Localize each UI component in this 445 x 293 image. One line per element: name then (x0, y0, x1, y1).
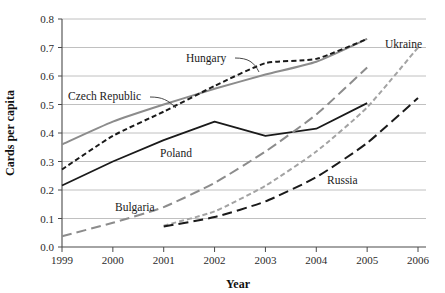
x-tick-label-2005: 2005 (356, 254, 379, 266)
y-tick-label-0.8: 0.8 (40, 13, 54, 25)
line-chart: 0.00.10.20.30.40.50.60.70.8 199920002001… (0, 0, 445, 293)
y-tick-label-0.5: 0.5 (40, 99, 54, 111)
x-tick-label-2003: 2003 (254, 254, 277, 266)
series-line-ukraine (164, 48, 418, 226)
series-line-russia (164, 98, 418, 227)
series-label-ukraine: Ukraine (385, 38, 422, 50)
y-tick-label-0.0: 0.0 (40, 241, 54, 253)
y-tick-marks (58, 19, 62, 247)
x-tick-label-2004: 2004 (305, 254, 328, 266)
y-tick-labels: 0.00.10.20.30.40.50.60.70.8 (40, 13, 54, 253)
y-tick-label-0.6: 0.6 (40, 70, 54, 82)
series-annotations: Czech RepublicHungaryPolandBulgariaUkrai… (68, 38, 422, 214)
y-axis-title: Cards per capita (3, 90, 17, 176)
series-label-poland: Poland (160, 147, 192, 159)
series-label-russia: Russia (327, 174, 358, 186)
annotation-leader-lines (150, 58, 259, 108)
x-axis-title: Year (226, 277, 251, 291)
gridlines (62, 19, 426, 219)
y-tick-label-0.2: 0.2 (40, 184, 54, 196)
x-tick-label-2001: 2001 (153, 254, 175, 266)
series-label-bulgaria: Bulgaria (115, 201, 155, 214)
x-tick-label-2000: 2000 (102, 254, 125, 266)
series-label-czech-republic: Czech Republic (68, 90, 141, 103)
x-tick-label-2006: 2006 (407, 254, 430, 266)
chart-container: 0.00.10.20.30.40.50.60.70.8 199920002001… (0, 0, 445, 293)
x-tick-labels: 19992000200120022003200420052006 (51, 254, 430, 266)
y-tick-label-0.1: 0.1 (40, 213, 54, 225)
y-tick-label-0.3: 0.3 (40, 156, 54, 168)
x-tick-label-1999: 1999 (51, 254, 74, 266)
y-tick-label-0.4: 0.4 (40, 127, 54, 139)
series-label-hungary: Hungary (186, 52, 226, 65)
y-tick-label-0.7: 0.7 (40, 42, 54, 54)
x-tick-label-2002: 2002 (204, 254, 226, 266)
x-tick-marks (62, 247, 418, 252)
